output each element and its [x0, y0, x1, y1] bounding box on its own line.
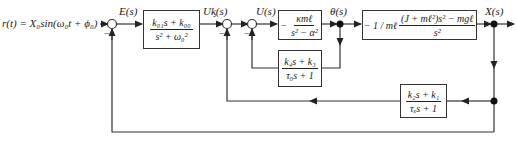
position-feedback-numerator: k₂s + k₁	[406, 89, 441, 102]
controller-block: k₀₁s + k₀₀ s² + ω₀²	[143, 10, 200, 49]
theta-signal-label: θ(s)	[330, 6, 347, 17]
angle-feedback-denominator: τ₀s + 1	[284, 69, 316, 81]
angle-feedback-numerator: k₄s + k₃	[282, 56, 317, 69]
uc-signal-label: Uᶄ(s)	[203, 6, 227, 17]
minus-sign-3: −	[244, 29, 250, 39]
minus-sign-2: −	[219, 29, 225, 39]
output-branch-point	[491, 21, 498, 28]
error-signal-label: E(s)	[119, 6, 137, 17]
plant-position-denominator: s²	[432, 26, 443, 38]
plant-position-block: − 1 / mℓ (J + mℓ²)s² − mgℓ s²	[362, 10, 477, 40]
plant-angle-block: − κmℓ s² − α²	[278, 10, 322, 40]
controller-denominator: s² + ω₀²	[153, 30, 189, 42]
minus-sign-1: −	[104, 29, 110, 39]
controller-numerator: k₀₁s + k₀₀	[150, 17, 192, 30]
feedback-branch-point	[491, 98, 498, 105]
plant-position-numerator: (J + mℓ²)s² − mgℓ	[399, 13, 475, 26]
plant-angle-numerator: κmℓ	[294, 13, 314, 26]
u-signal-label: U(s)	[256, 6, 276, 17]
angle-feedback-block: k₄s + k₃ τ₀s + 1	[278, 50, 322, 87]
output-signal-label: X(s)	[485, 6, 503, 17]
plant-angle-denominator: s² − α²	[289, 26, 320, 38]
theta-branch-point	[337, 21, 344, 28]
input-signal-label: r(t) = X₀sin(ω₀t + ϕ₀)	[2, 18, 97, 29]
plant-position-prefix: − 1 / mℓ	[364, 20, 397, 31]
position-feedback-block: k₂s + k₁ τₓs + 1	[400, 84, 447, 118]
position-feedback-denominator: τₓs + 1	[408, 102, 439, 114]
plant-angle-sign: −	[280, 20, 287, 31]
